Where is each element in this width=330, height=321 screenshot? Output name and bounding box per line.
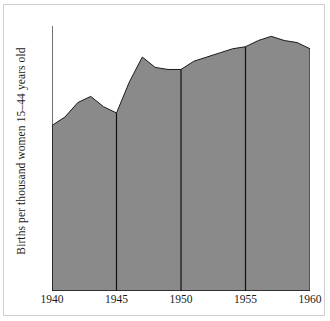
plot-area — [52, 26, 310, 291]
x-tick-label-1955: 1955 — [234, 294, 257, 306]
chart-page: Births per thousand women 15–44 years ol… — [0, 0, 330, 321]
y-axis-tick-labels: 06080100120 — [0, 0, 48, 321]
x-tick-label-1960: 1960 — [299, 294, 322, 306]
area-chart-svg — [52, 26, 310, 291]
x-axis-tick-labels: 19401945195019551960 — [0, 294, 330, 314]
x-tick-label-1950: 1950 — [170, 294, 193, 306]
x-tick-label-1940: 1940 — [41, 294, 64, 306]
x-tick-label-1945: 1945 — [105, 294, 128, 306]
